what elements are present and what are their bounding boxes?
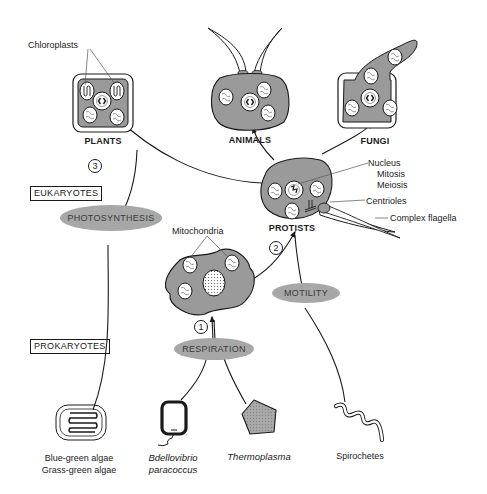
- meiosis-label: Meiosis: [377, 181, 408, 190]
- step-2-marker: 2: [269, 241, 283, 255]
- bdellovibrio-label: Bdellovibrio paracoccus: [148, 452, 197, 476]
- photosynthesis-process: PHOTOSYNTHESIS: [60, 205, 162, 231]
- mitochondria-label: Mitochondria: [172, 227, 224, 236]
- thermoplasma-cell: [242, 400, 276, 434]
- plants-label: PLANTS: [84, 137, 121, 146]
- grass-green-algae-name: Grass-green algae: [42, 464, 117, 476]
- motility-process: MOTILITY: [272, 283, 340, 303]
- animal-cell: [208, 28, 289, 130]
- centrioles-label: Centrioles: [366, 197, 407, 206]
- blue-green-algae-label: Blue-green algae Grass-green algae: [42, 452, 117, 476]
- step-3-marker: 3: [88, 159, 102, 173]
- fungal-cell: [338, 40, 417, 128]
- respiration-process: RESPIRATION: [174, 338, 254, 360]
- mitosis-label: Mitosis: [377, 170, 405, 179]
- bdellovibrio-name: Bdellovibrio: [148, 452, 197, 464]
- amoeboid-host-cell: [165, 249, 254, 315]
- spirochete-cell: [336, 405, 382, 440]
- fungi-label: FUNGI: [361, 137, 390, 146]
- step-1-marker: 1: [194, 320, 208, 334]
- plant-cell: [73, 74, 133, 132]
- thermoplasma-label: Thermoplasma: [227, 452, 290, 462]
- blue-green-algae-cell: [56, 405, 106, 440]
- bdellovibrio-cell: [158, 402, 186, 446]
- paracoccus-name: paracoccus: [148, 464, 197, 476]
- animals-label: ANIMALS: [229, 136, 271, 145]
- chloroplasts-label: Chloroplasts: [28, 41, 78, 50]
- blue-green-algae-name: Blue-green algae: [42, 452, 117, 464]
- complex-flagella-label: Complex flagella: [390, 214, 457, 223]
- eukaryotes-label: EUKARYOTES: [30, 186, 102, 201]
- spirochetes-label: Spirochetes: [336, 452, 384, 461]
- protists-label: PROTISTS: [269, 224, 316, 233]
- nucleus-label: Nucleus: [368, 159, 401, 168]
- prokaryotes-label: PROKARYOTES: [30, 339, 110, 354]
- endosymbiosis-diagram: [0, 0, 487, 494]
